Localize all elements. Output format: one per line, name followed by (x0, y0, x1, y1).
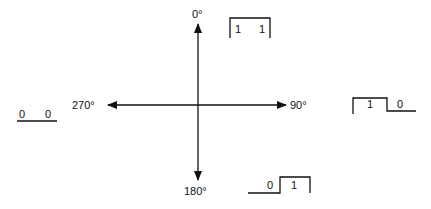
svg-text:0: 0 (19, 108, 25, 120)
svg-text:1: 1 (291, 179, 297, 191)
angle-label-0: 0° (192, 8, 203, 20)
waveform-270deg: 0 0 (17, 108, 57, 121)
svg-text:0: 0 (45, 108, 51, 120)
angle-label-90: 90° (290, 99, 307, 111)
axes (108, 24, 286, 180)
svg-text:1: 1 (235, 23, 241, 35)
waveform-90deg: 1 0 (353, 98, 416, 114)
svg-text:1: 1 (367, 98, 373, 110)
svg-text:1: 1 (259, 23, 265, 35)
waveform-180deg: 0 1 (248, 177, 310, 193)
waveform-0deg: 1 1 (230, 18, 270, 38)
phase-diagram: 0° 90° 180° 270° 1 1 1 0 0 1 0 0 (0, 0, 431, 209)
angle-label-180: 180° (184, 185, 207, 197)
svg-text:0: 0 (267, 179, 273, 191)
svg-text:0: 0 (397, 98, 403, 110)
angle-label-270: 270° (72, 99, 95, 111)
